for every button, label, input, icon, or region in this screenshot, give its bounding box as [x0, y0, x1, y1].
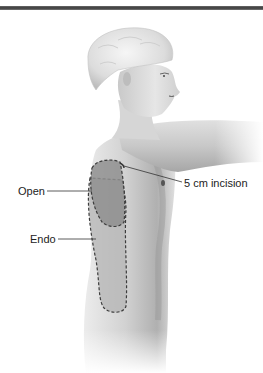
label-endo: Endo	[30, 233, 56, 245]
label-incision: 5 cm incision	[184, 177, 248, 189]
label-open: Open	[18, 185, 45, 197]
head	[88, 28, 180, 117]
